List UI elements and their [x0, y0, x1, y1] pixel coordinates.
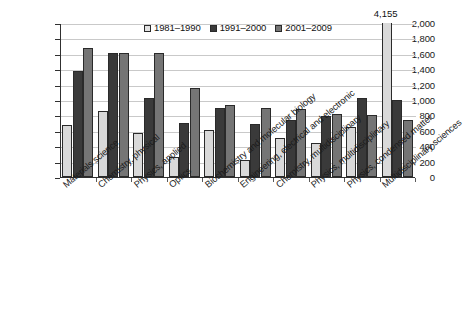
- bar: [190, 88, 200, 177]
- legend-entry: 1991–2000: [210, 23, 267, 33]
- bar: [108, 53, 118, 177]
- bar-group: [62, 23, 93, 177]
- legend-label: 1991–2000: [220, 23, 267, 33]
- legend-label: 1981–1990: [154, 23, 201, 33]
- legend-entry: 1981–1990: [144, 23, 201, 33]
- legend: 1981–19901991–20002001–2009: [144, 23, 332, 33]
- bar-group: [204, 23, 235, 177]
- legend-label: 2001–2009: [285, 23, 332, 33]
- legend-swatch-icon: [210, 25, 217, 32]
- bar: [62, 125, 72, 177]
- bar: [204, 130, 214, 177]
- x-axis-tick-mark: [415, 178, 416, 182]
- legend-swatch-icon: [275, 25, 282, 32]
- y-axis-tick-mark: [55, 178, 60, 179]
- bar-value-label: 4,155: [374, 9, 398, 19]
- legend-entry: 2001–2009: [275, 23, 332, 33]
- legend-swatch-icon: [144, 25, 151, 32]
- bar: [73, 71, 83, 177]
